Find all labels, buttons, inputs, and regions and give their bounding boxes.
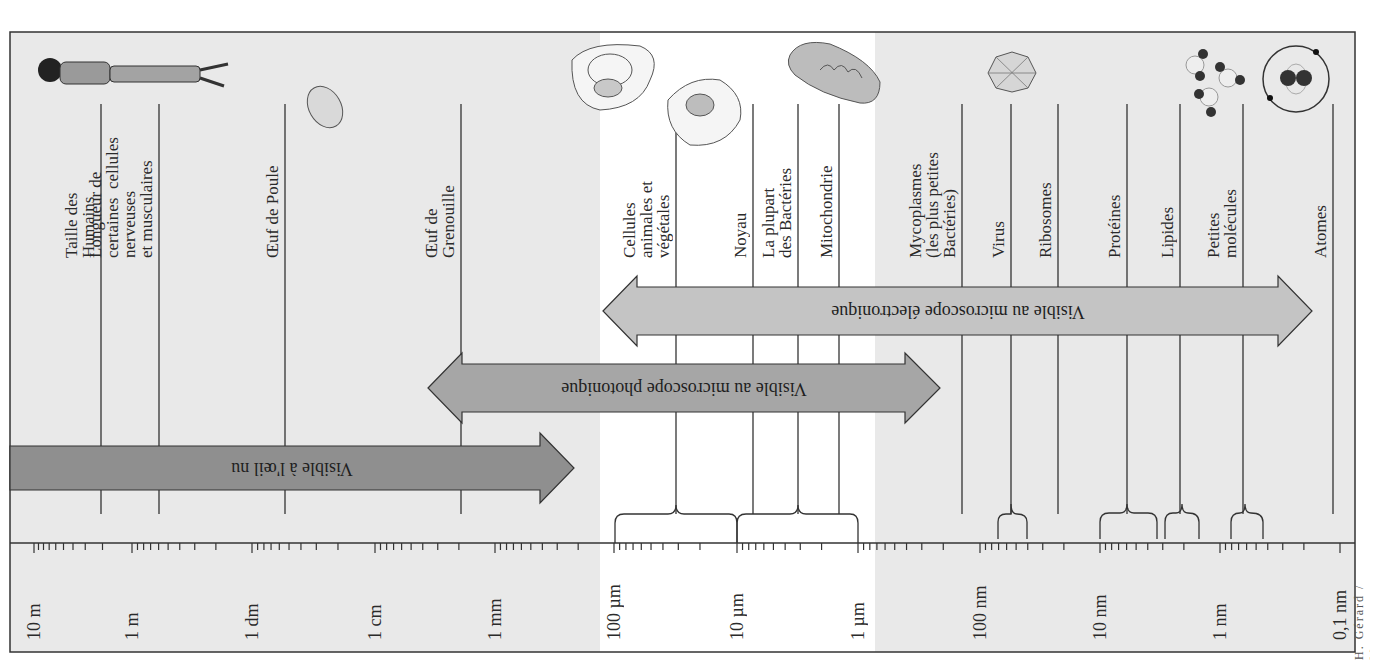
object-label: Atomes <box>1312 108 1329 258</box>
arrow-label: Visible au microscope électronique <box>831 301 1084 322</box>
scale-tick-label: 1 dm <box>243 560 261 640</box>
scale-tick-label: 10 m <box>25 560 43 640</box>
object-label: Lipides <box>1159 108 1176 258</box>
scale-tick-label: 10 µm <box>728 560 746 640</box>
scale-tick-label: 10 nm <box>1091 560 1109 640</box>
arrow-label: Visible au microscope photonique <box>561 378 806 399</box>
scale-tick-label: 1 µm <box>849 560 867 640</box>
object-label: Noyau <box>732 108 749 258</box>
scale-tick-label: 100 nm <box>971 560 989 640</box>
scale-tick-label: 1 m <box>123 560 141 640</box>
object-label: Cellules animales et végétales <box>621 108 672 258</box>
diagram-canvas <box>0 0 1376 660</box>
object-label: La plupart des Bactéries <box>760 108 794 258</box>
scale-tick-label: 0,1 nm <box>1331 560 1349 640</box>
object-label: Ribosomes <box>1037 108 1054 258</box>
scale-tick-label: 1 nm <box>1211 560 1229 640</box>
object-label: Protéines <box>1106 108 1123 258</box>
object-label: Petites molécules <box>1205 108 1239 258</box>
scale-tick-label: 1 cm <box>366 560 384 640</box>
scale-tick-label: 1 mm <box>486 560 504 640</box>
object-label: Œuf de Poule <box>264 108 281 258</box>
scale-tick-label: 100 µm <box>605 560 623 640</box>
virus-icon <box>988 52 1036 92</box>
object-label: Mitochondrie <box>818 108 835 258</box>
object-label: Œuf de Grenouille <box>423 108 457 258</box>
arrow-label: Visible à l'œil nu <box>231 458 353 479</box>
size-scale-diagram: Taille des HumainsLongueur de certaines … <box>0 0 1376 660</box>
photo-credit: H. Gérard / Masson <box>1352 540 1370 660</box>
object-label: Virus <box>990 108 1007 258</box>
object-label: Mycoplasmes (les plus petites Bactéries) <box>907 108 958 258</box>
object-label: Longueur de certaines cellules nerveuses… <box>87 108 155 258</box>
